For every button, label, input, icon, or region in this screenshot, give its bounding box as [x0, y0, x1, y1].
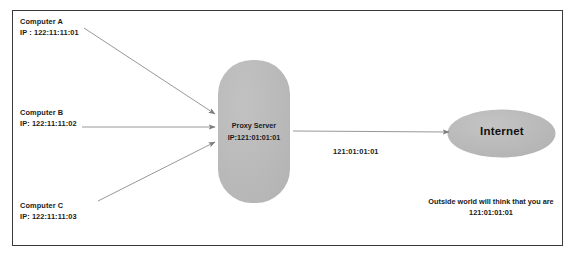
computer-b-ip: IP: 122:11:11:02: [20, 118, 77, 129]
node-computer-b: Computer B IP: 122:11:11:02: [20, 107, 77, 130]
computer-b-name: Computer B: [20, 107, 77, 118]
node-computer-c: Computer C IP: 122:11:11:03: [20, 200, 77, 223]
internet-label: Internet: [448, 125, 556, 137]
computer-c-ip: IP: 122:11:11:03: [20, 211, 77, 222]
caption-line-1: Outside world will think that you are: [408, 196, 574, 207]
computer-a-ip: IP : 122:11:11:01: [20, 27, 79, 38]
proxy-server-name: Proxy Server: [218, 120, 290, 132]
node-computer-a: Computer A IP : 122:11:11:01: [20, 16, 79, 39]
proxy-internet-link-label: 121:01:01:01: [333, 147, 379, 156]
proxy-server-ip: IP:121:01:01:01: [218, 132, 290, 144]
diagram-canvas: Computer A IP : 122:11:11:01 Computer B …: [0, 0, 583, 262]
proxy-server-label-group: Proxy Server IP:121:01:01:01: [218, 120, 290, 143]
computer-a-name: Computer A: [20, 16, 79, 27]
computer-c-name: Computer C: [20, 200, 77, 211]
outside-world-caption: Outside world will think that you are 12…: [408, 196, 574, 219]
caption-line-2: 121:01:01:01: [408, 207, 574, 218]
